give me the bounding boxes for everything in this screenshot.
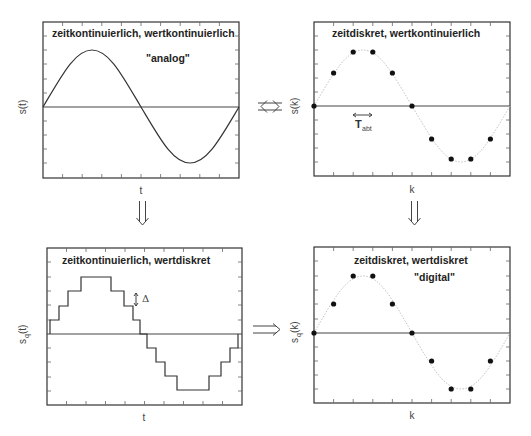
panel-title: zeitkontinuierlich, wertkontinuierlich [52,27,235,39]
frame [43,22,239,178]
frame [314,247,510,403]
svg-text:(t): (t) [17,325,28,334]
panel-title: zeitdiskret, wertkontinuierlich [332,27,480,39]
ticks [314,22,510,176]
panel-title: zeitdiskret, wertdiskret [354,254,468,266]
svg-text:(k): (k) [289,321,300,333]
ticks [47,248,242,405]
panel-sampled: zeitdiskret, wertkontinuierlich T abt s(… [289,22,510,195]
x-axis-label: t [140,185,143,196]
x-axis-label: t [143,412,146,423]
svg-text:s: s [289,338,300,343]
digital-label: "digital" [414,271,455,283]
ticks [43,22,239,178]
y-axis-label: s(k) [289,98,300,115]
step-size-arrow: Δ [134,293,149,306]
period-label: T [355,118,362,130]
panel-quantized: Δ zeitkontinuierlich, wertdiskret s q (t… [17,248,242,423]
double-arrow-down-icon-right [409,201,421,225]
svg-text:s: s [17,339,28,344]
ticks [314,247,510,403]
panel-analog: zeitkontinuierlich, wertkontinuierlich "… [17,22,239,196]
panel-digital: zeitdiskret, wertdiskret "digital" s q (… [289,247,510,421]
y-axis-label: s q (t) [17,325,31,344]
y-axis-label: s(t) [17,100,28,114]
signal-diagram: zeitkontinuierlich, wertkontinuierlich "… [0,0,531,436]
y-axis-label: s q (k) [289,321,303,343]
panel-title: zeitkontinuierlich, wertdiskret [62,254,211,266]
frame [47,248,242,405]
period-subscript: abt [362,125,372,132]
double-arrow-down-icon-left [137,201,149,225]
analog-label: "analog" [146,52,190,64]
sampling-period-arrow: T abt [353,113,372,132]
x-axis-label: k [410,184,416,195]
delta-label: Δ [142,293,149,304]
x-axis-label: k [410,410,416,421]
frame [314,22,510,176]
double-arrow-left-right-icon [258,101,282,113]
double-arrow-right-icon [253,324,280,336]
